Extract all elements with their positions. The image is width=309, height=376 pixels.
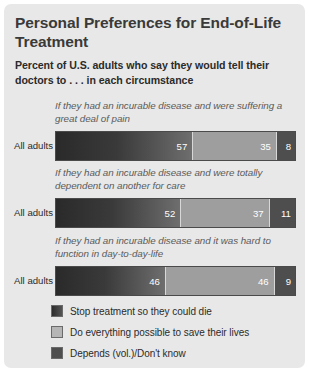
bar-value-stop-treatment: 57: [177, 141, 193, 152]
legend-swatch-icon: [51, 305, 63, 317]
bar-segment-depends: 11: [269, 199, 295, 227]
bar-segment-stop-treatment: 52: [56, 199, 180, 227]
legend-item-do-everything: Do everything possible to save their liv…: [51, 325, 249, 339]
group-condition-label: If they had an incurable disease and wer…: [55, 167, 295, 192]
chart-card: Personal Preferences for End-of-Life Tre…: [4, 4, 305, 368]
bar-value-stop-treatment: 52: [165, 208, 181, 219]
stacked-bar: 57 35 8: [55, 131, 296, 161]
chart-inner: Personal Preferences for End-of-Life Tre…: [4, 4, 305, 368]
legend-item-stop-treatment: Stop treatment so they could die: [51, 304, 212, 318]
row-label: All adults: [8, 268, 53, 294]
row-label: All adults: [8, 200, 53, 226]
bar-segment-stop-treatment: 46: [56, 267, 165, 295]
bar-value-do-everything: 46: [258, 276, 274, 287]
legend-label: Do everything possible to save their liv…: [70, 327, 249, 338]
row-label: All adults: [8, 133, 53, 159]
bar-segment-do-everything: 46: [165, 267, 274, 295]
stacked-bar: 46 46 9: [55, 266, 296, 296]
chart-subtitle: Percent of U.S. adults who say they woul…: [15, 58, 295, 87]
bar-value-depends: 8: [286, 141, 295, 152]
legend-label: Depends (vol.)/Don't know: [70, 348, 186, 359]
bar-segment-depends: 9: [274, 267, 295, 295]
bar-value-do-everything: 35: [260, 141, 276, 152]
bar-value-depends: 11: [281, 208, 295, 219]
legend-item-depends: Depends (vol.)/Don't know: [51, 346, 186, 360]
legend-swatch-icon: [51, 347, 63, 359]
bar-value-do-everything: 37: [253, 208, 269, 219]
page-title: Personal Preferences for End-of-Life Tre…: [15, 13, 291, 51]
group-condition-label: If they had an incurable disease and it …: [55, 235, 295, 260]
bar-segment-stop-treatment: 57: [56, 132, 192, 160]
group-condition-label: If they had an incurable disease and wer…: [55, 100, 295, 125]
stacked-bar: 52 37 11: [55, 198, 296, 228]
bar-value-stop-treatment: 46: [149, 276, 165, 287]
bar-value-depends: 9: [286, 276, 295, 287]
bar-segment-depends: 8: [276, 132, 295, 160]
legend-swatch-icon: [51, 326, 63, 338]
legend-label: Stop treatment so they could die: [70, 306, 212, 317]
bar-segment-do-everything: 35: [192, 132, 276, 160]
bar-segment-do-everything: 37: [180, 199, 268, 227]
